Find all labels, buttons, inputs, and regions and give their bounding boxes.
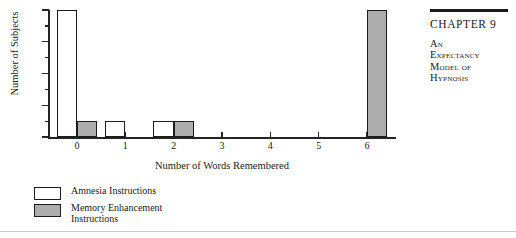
y-tick-major [42, 73, 49, 74]
chapter-title: CHAPTER 9 [430, 18, 510, 31]
chapter-subtitle-line: An [430, 38, 510, 50]
x-tick-label: 5 [307, 140, 331, 151]
x-tick [318, 132, 319, 138]
x-tick-label: 6 [355, 140, 379, 151]
chapter-subtitle-line: Expectancy [430, 49, 510, 61]
x-tick [270, 132, 271, 138]
x-tick-label: 3 [210, 140, 234, 151]
chapter-subtitle-line: Model of [430, 61, 510, 73]
y-tick-major [42, 41, 49, 42]
y-tick-major [42, 136, 49, 137]
y-tick-minor [45, 121, 50, 122]
bar [57, 10, 77, 137]
x-tick-label: 2 [162, 140, 186, 151]
y-tick-major [42, 9, 49, 10]
chapter-subtitle: AnExpectancyModel ofHypnosis [430, 38, 510, 84]
x-tick-label: 1 [113, 140, 137, 151]
chapter-subtitle-line: Hypnosis [430, 72, 510, 84]
chapter-header: CHAPTER 9 AnExpectancyModel ofHypnosis [430, 9, 510, 84]
legend-item-memory-enhancement: Memory Enhancement Instructions [34, 203, 162, 224]
legend-swatch-white [34, 187, 61, 200]
bar [105, 121, 125, 137]
chapter-rule [430, 9, 508, 12]
chart-legend: Amnesia Instructions Memory Enhancement … [34, 186, 162, 227]
bar [367, 10, 387, 137]
bar [77, 121, 97, 137]
legend-swatch-gray [34, 204, 61, 217]
legend-label-memory-enhancement: Memory Enhancement Instructions [71, 203, 162, 224]
bar [174, 121, 194, 137]
page-bottom-rule [0, 231, 516, 232]
x-axis-title: Number of Words Remembered [48, 160, 396, 171]
y-tick-minor [45, 25, 50, 26]
x-tick-label: 0 [65, 140, 89, 151]
y-tick-minor [45, 89, 50, 90]
y-tick-major [42, 105, 49, 106]
legend-label-amnesia: Amnesia Instructions [71, 186, 156, 197]
y-axis-title: Number of Subjects [9, 0, 20, 114]
bar [153, 121, 173, 137]
x-tick [221, 132, 222, 138]
x-tick-label: 4 [258, 140, 282, 151]
legend-item-amnesia: Amnesia Instructions [34, 186, 162, 200]
y-tick-minor [45, 57, 50, 58]
